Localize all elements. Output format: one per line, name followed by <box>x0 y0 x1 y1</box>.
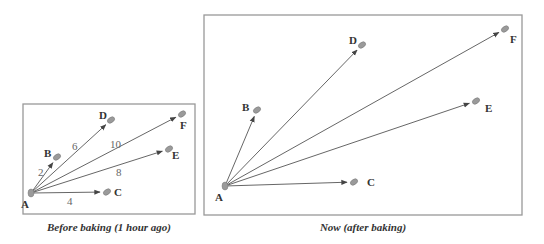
label-after-E: E <box>485 102 492 114</box>
point-after-E <box>471 97 481 106</box>
label-after-D: D <box>349 34 357 46</box>
label-before-D: D <box>99 109 107 121</box>
point-before-B <box>52 153 62 162</box>
distance-before-B: 2 <box>38 166 44 178</box>
label-before-B: B <box>44 147 52 159</box>
label-before-C: C <box>114 186 122 198</box>
bake-diagram: B2C4D6E8F10ABCDEFA <box>0 0 544 244</box>
arrow-after-C <box>225 182 347 186</box>
point-after-C <box>349 178 359 187</box>
label-after-A: A <box>215 191 223 203</box>
point-after-B <box>252 106 262 115</box>
arrow-before-C <box>31 192 100 193</box>
point-before-F <box>177 110 187 119</box>
caption-before: Before baking (1 hour ago) <box>23 221 195 233</box>
label-after-B: B <box>242 101 250 113</box>
caption-after: Now (after baking) <box>204 221 522 233</box>
distance-before-D: 6 <box>72 140 78 152</box>
point-before-D <box>106 116 116 125</box>
arrow-after-E <box>225 103 469 186</box>
arrow-after-B <box>225 116 254 186</box>
origin-after <box>222 182 228 190</box>
arrow-after-F <box>225 32 499 186</box>
label-before-A: A <box>21 198 29 210</box>
arrow-before-D <box>31 125 106 193</box>
point-before-C <box>102 188 112 197</box>
arrow-after-D <box>225 50 357 186</box>
label-after-F: F <box>510 33 517 45</box>
distance-before-C: 4 <box>67 195 73 207</box>
distance-before-F: 10 <box>110 138 122 150</box>
origin-before <box>28 189 34 197</box>
point-after-F <box>500 25 510 34</box>
label-before-F: F <box>180 119 187 131</box>
distance-before-E: 8 <box>116 166 122 178</box>
label-after-C: C <box>367 176 375 188</box>
label-before-E: E <box>172 149 179 161</box>
point-after-D <box>357 41 367 50</box>
arrow-before-F <box>31 117 176 193</box>
